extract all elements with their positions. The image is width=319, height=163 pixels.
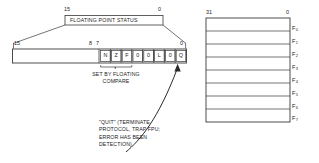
register-file-bit-0: 0 <box>286 10 289 15</box>
register-file-row-dividers <box>206 31 290 109</box>
fpu-status-and-register-diagram: 15 0 FLOATING POINT STATUS 15 8 7 0 N Z … <box>0 0 319 163</box>
status-box-bit-low: 0 <box>158 7 161 12</box>
register-label-f2: F2 <box>292 52 298 58</box>
status-register-bit-8: 8 <box>89 41 92 46</box>
floating-point-status-label: FLOATING POINT STATUS <box>70 18 138 23</box>
set-by-floating-compare-brace <box>101 65 132 68</box>
status-cell-q-flag: Q <box>176 53 186 58</box>
register-file-bit-31: 31 <box>206 10 212 15</box>
quit-annotation-line2: PROTOCOL, TRAP FPU; <box>99 126 160 133</box>
register-label-f6-base: F <box>292 103 296 109</box>
quit-annotation-line4: DETECTION) <box>99 141 132 148</box>
register-label-f0-base: F <box>292 25 296 31</box>
status-cell-zero-bit-3: 0 <box>144 53 154 58</box>
register-label-f5-sub: 5 <box>296 92 298 97</box>
register-label-f7: F7 <box>292 116 298 122</box>
register-label-f4: F4 <box>292 78 298 84</box>
register-label-f1: F1 <box>292 39 298 45</box>
quit-annotation-line3: ERROR HAS BEEN <box>99 134 147 141</box>
register-label-f3: F3 <box>292 65 298 71</box>
status-register-bit-ticks <box>14 43 186 48</box>
register-label-f4-base: F <box>292 77 296 83</box>
register-label-f7-sub: 7 <box>296 117 298 122</box>
register-label-f5-base: F <box>292 90 296 96</box>
diagram-vector-layer <box>0 0 319 163</box>
register-label-f7-base: F <box>292 115 296 121</box>
register-label-f6-sub: 6 <box>296 105 298 110</box>
status-cell-zero-bit-4: 0 <box>133 53 143 58</box>
status-cell-n-flag: N <box>101 53 111 58</box>
status-box-bit-high: 15 <box>64 7 70 12</box>
set-by-floating-compare-line2: COMPARE <box>77 78 155 85</box>
register-label-f3-base: F <box>292 64 296 70</box>
status-register-bit-15: 15 <box>14 41 20 46</box>
register-label-f6: F6 <box>292 104 298 110</box>
register-label-f2-base: F <box>292 51 296 57</box>
status-cell-l-flag: L <box>155 53 165 58</box>
register-label-f5: F5 <box>292 91 298 97</box>
status-register-bit-7: 7 <box>96 41 99 46</box>
status-cell-f-flag: F <box>122 53 132 58</box>
status-cell-zero-bit-2: 0 <box>165 53 175 58</box>
register-label-f4-sub: 4 <box>296 79 298 84</box>
quit-annotation-arrowhead <box>174 64 180 72</box>
register-label-f1-sub: 1 <box>296 40 298 45</box>
register-label-f0-sub: 0 <box>296 27 298 32</box>
register-label-f3-sub: 3 <box>296 66 298 71</box>
quit-annotation-line1: "QUIT" (TERMINATE <box>99 119 150 126</box>
status-register-bit-0: 0 <box>180 41 183 46</box>
register-label-f0: F0 <box>292 26 298 32</box>
status-cell-z-flag: Z <box>111 53 121 58</box>
leader-line-left <box>13 25 65 44</box>
register-label-f2-sub: 2 <box>296 53 298 58</box>
register-label-f1-base: F <box>292 38 296 44</box>
